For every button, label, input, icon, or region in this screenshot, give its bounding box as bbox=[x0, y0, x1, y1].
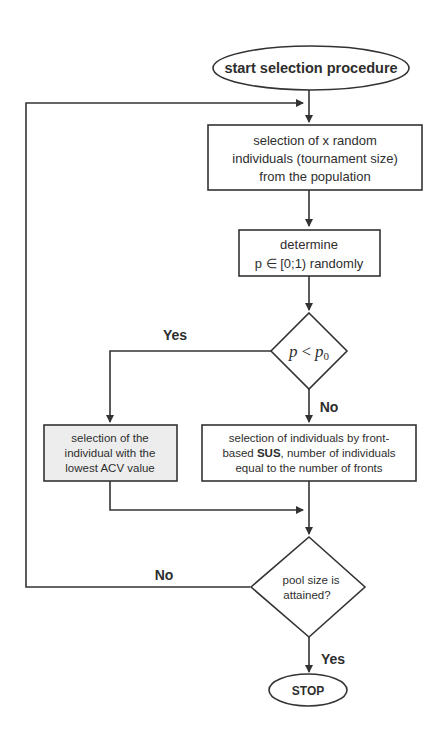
select-lowest-line-2: individual with the bbox=[65, 447, 156, 459]
select-random-line-1: selection of x random bbox=[253, 133, 377, 148]
select-sus-line-1: selection of individuals by front- bbox=[229, 432, 390, 444]
determine-line-2: p ∈ [0;1) randomly bbox=[255, 256, 364, 271]
pool-line-2: attained? bbox=[283, 589, 330, 601]
decision-p-yes-label: Yes bbox=[163, 327, 187, 343]
decision-pool-no-label: No bbox=[155, 567, 174, 583]
arrow-yes-branch bbox=[110, 351, 271, 422]
select-sus-line-3: equal to the number of fronts bbox=[235, 462, 382, 474]
decision-p-no-label: No bbox=[320, 399, 339, 415]
decision-pool-yes-label: Yes bbox=[321, 651, 345, 667]
select-lowest-line-3: lowest ACV value bbox=[65, 462, 155, 474]
start-label: start selection procedure bbox=[224, 60, 397, 76]
stop-label: STOP bbox=[292, 684, 324, 698]
determine-line-1: determine bbox=[280, 237, 338, 252]
arrow-merge-left bbox=[110, 481, 303, 510]
decision-p-label: p<p0 bbox=[288, 342, 330, 362]
select-lowest-line-1: selection of the bbox=[71, 432, 148, 444]
decision-pool-node bbox=[251, 537, 365, 637]
select-sus-line-2: based SUS, number of individuals bbox=[222, 447, 395, 459]
selection-flowchart: start selection procedure selection of x… bbox=[0, 0, 445, 744]
select-random-line-2: individuals (tournament size) bbox=[232, 151, 397, 166]
select-random-line-3: from the population bbox=[259, 169, 370, 184]
pool-line-1: pool size is bbox=[283, 574, 340, 586]
